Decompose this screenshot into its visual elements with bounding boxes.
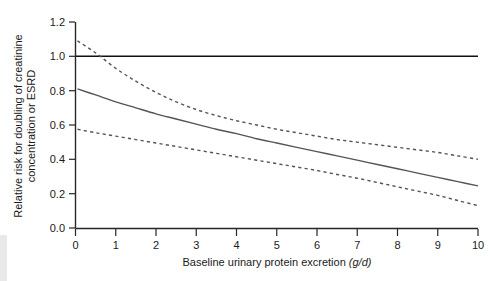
y-axis-title-line2: concentration or ESRD: [25, 70, 37, 183]
x-tick-label-10: 10: [472, 239, 484, 251]
y-tick-label-0.0: 0.0: [50, 222, 65, 234]
figure-container: 1.2 1.0 0.8 0.6 0.4 0.2 0.0 0 1 2 3: [0, 0, 500, 281]
x-axis-title-unit: (g/d): [349, 256, 372, 268]
y-axis-title-group: Relative risk for doubling of creatinine…: [12, 34, 37, 217]
x-tick-label-7: 7: [354, 239, 360, 251]
x-axis-title-text: Baseline urinary protein excretion: [183, 256, 346, 268]
x-tick-label-1: 1: [113, 239, 119, 251]
x-axis-title: Baseline urinary protein excretion (g/d): [183, 256, 372, 268]
x-tick-label-3: 3: [193, 239, 199, 251]
x-axis-ticks: [76, 229, 479, 236]
x-tick-label-6: 6: [314, 239, 320, 251]
x-tick-label-0: 0: [72, 239, 78, 251]
y-tick-label-0.2: 0.2: [50, 188, 65, 200]
y-tick-label-0.8: 0.8: [50, 85, 65, 97]
y-axis-tick-labels: 1.2 1.0 0.8 0.6 0.4 0.2 0.0: [50, 16, 65, 234]
x-axis-tick-labels: 0 1 2 3 4 5 6 7 8 9 10: [72, 239, 484, 251]
y-tick-label-0.4: 0.4: [50, 153, 65, 165]
x-tick-label-8: 8: [394, 239, 400, 251]
x-tick-label-4: 4: [233, 239, 239, 251]
lower-confidence-curve: [78, 129, 478, 205]
x-tick-label-2: 2: [153, 239, 159, 251]
y-tick-label-1.0: 1.0: [50, 50, 65, 62]
relative-risk-chart: 1.2 1.0 0.8 0.6 0.4 0.2 0.0 0 1 2 3: [0, 0, 500, 281]
upper-confidence-curve: [78, 41, 478, 159]
x-tick-label-9: 9: [435, 239, 441, 251]
y-tick-label-0.6: 0.6: [50, 119, 65, 131]
relative-risk-curve: [78, 89, 478, 186]
y-tick-label-1.2: 1.2: [50, 16, 65, 28]
series-group: [78, 41, 478, 206]
y-axis-ticks: [69, 22, 75, 228]
y-axis-title-line1: Relative risk for doubling of creatinine: [12, 34, 24, 217]
x-tick-label-5: 5: [274, 239, 280, 251]
